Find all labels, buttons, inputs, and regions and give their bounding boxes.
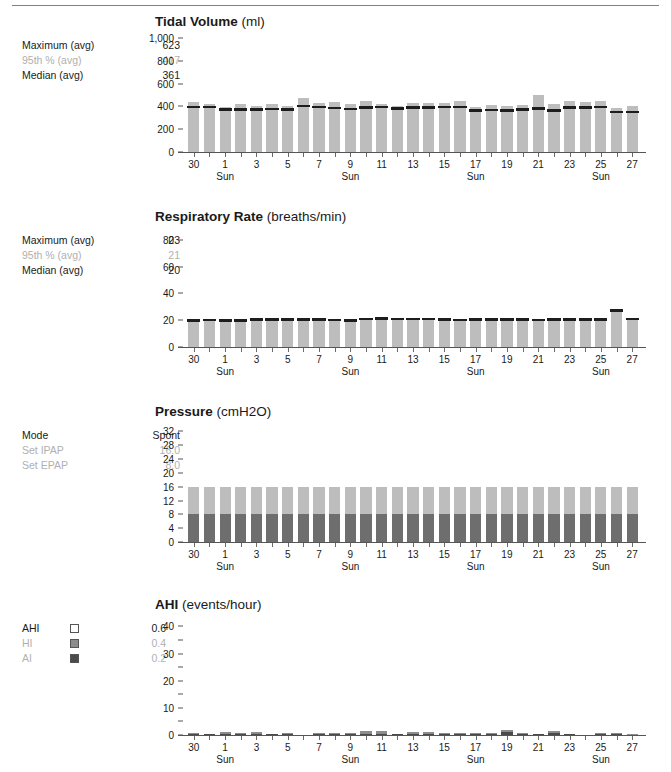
x-tick-sublabel-sun: Sun [341,754,359,765]
x-tick-mark [507,153,508,157]
bar-30 [188,38,199,152]
bar-31 [204,233,215,347]
x-tick-mark [460,348,461,352]
y-tick-mark [178,129,183,130]
x-tick-label: 5 [285,159,291,170]
bar-segment-epap [627,514,638,542]
x-tick-mark [209,153,210,157]
bar-14 [423,621,434,735]
x-tick-mark [209,348,210,352]
bar-median-marker [250,108,263,111]
x-tick-label: 17 [470,549,481,560]
panel-title-unit: (events/hour) [178,597,261,612]
bar-segment-epap [329,514,340,542]
bar-10 [360,233,371,347]
y-tick-label: 40 [134,288,174,299]
x-tick-mark [491,736,492,740]
bar-median-marker [438,106,451,109]
bar-23 [564,428,575,542]
bar-segment-p95 [204,104,215,152]
x-tick-mark [319,153,320,157]
x-tick-label: 11 [376,354,386,365]
x-tick-mark [413,153,414,157]
bar-segment-p95 [266,104,277,152]
bar-segment-p95 [470,320,481,347]
bar-21 [533,233,544,347]
y-tick-label: 400 [134,101,174,112]
bar-segment-p95 [517,105,528,152]
x-tick-mark [632,348,633,352]
x-tick-sublabel-sun: Sun [467,561,485,572]
x-tick-label: 30 [188,742,199,753]
x-tick-label: 3 [254,354,260,365]
bar-segment-epap [439,514,450,542]
bar-segment-ai [345,734,356,735]
y-tick-mark [178,320,183,321]
bar-6 [298,38,309,152]
bar-27 [627,428,638,542]
x-tick-label: 27 [627,354,638,365]
y-tick-mark [178,514,183,515]
x-tick-label: 3 [254,159,260,170]
bar-26 [611,621,622,735]
bar-15 [439,233,450,347]
bar-25 [595,38,606,152]
bar-22 [548,621,559,735]
bar-median-marker [328,319,341,322]
bar-median-marker [500,318,513,321]
x-tick-mark [366,348,367,352]
bar-segment-ai [517,734,528,735]
panel-title-text: AHI [155,597,178,612]
legend-label: HI [22,636,33,651]
bar-segment-p95 [454,320,465,347]
legend-label: AI [22,651,32,666]
bar-segment-ai [220,734,231,735]
bar-median-marker [610,111,623,114]
x-tick-mark [507,543,508,547]
bar-segment-ai [439,734,450,735]
x-tick-label: 7 [316,354,322,365]
legend-swatch-ahi [70,624,79,633]
x-tick-mark [194,736,195,740]
x-tick-mark [225,736,226,740]
bar-segment-epap [486,514,497,542]
bar-13 [407,621,418,735]
bar-23 [564,233,575,347]
x-tick-mark [288,348,289,352]
bar-6 [298,233,309,347]
bar-median-marker [250,318,263,321]
x-tick-mark [350,543,351,547]
bar-24 [580,233,591,347]
bar-22 [548,428,559,542]
x-tick-mark [444,153,445,157]
x-axis-line [178,152,646,153]
x-tick-label: 15 [439,354,450,365]
x-tick-mark [303,736,304,740]
x-tick-sublabel-sun: Sun [216,366,234,377]
bar-segment-epap [360,514,371,542]
x-tick-mark [617,543,618,547]
bar-median-marker [469,109,482,112]
bar-segment-p95 [360,319,371,347]
bar-segment-hi [627,734,638,735]
x-tick-label: 25 [595,549,606,560]
bar-segment-epap [407,514,418,542]
x-tick-mark [366,736,367,740]
y-tick-label: 20 [134,315,174,326]
x-tick-mark [225,348,226,352]
x-tick-mark [491,153,492,157]
bar-9 [345,38,356,152]
x-tick-sublabel-sun: Sun [467,366,485,377]
y-tick-mark [178,239,183,240]
x-tick-label: 21 [533,742,544,753]
bar-10 [360,38,371,152]
bar-segment-p95 [220,107,231,152]
header-divider [12,5,659,6]
bar-segment-p95 [580,102,591,152]
x-tick-mark [460,543,461,547]
x-axis-line [178,542,646,543]
bar-5 [282,233,293,347]
bar-median-marker [234,108,247,111]
bar-segment-ai [266,734,277,735]
bar-median-marker [281,318,294,321]
